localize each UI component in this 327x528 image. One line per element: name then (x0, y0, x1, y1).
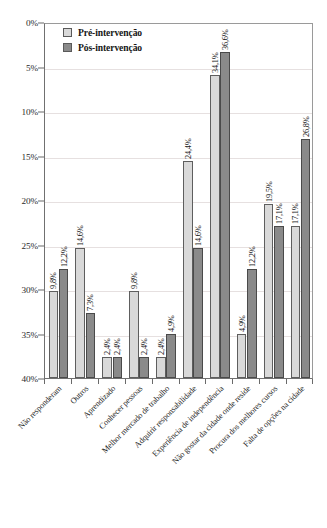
bar-pre: 2,4% (156, 357, 166, 378)
y-axis-tick-label: 0% (26, 18, 38, 28)
bar-pre: 2,4% (102, 357, 112, 378)
bar-pos: 12,2% (59, 269, 69, 378)
legend-label: Pré-intervenção (78, 27, 142, 38)
legend-swatch-pos-icon (63, 43, 72, 52)
bar-value-label: 17,1% (291, 203, 300, 224)
bar-pos: 12,2% (247, 269, 257, 378)
bar-group: 14,6%7,3% (72, 24, 99, 378)
bar-pos: 26,8% (301, 139, 311, 378)
bar-value-label: 34,1% (210, 52, 219, 73)
bar-value-label: 26,8% (301, 117, 310, 138)
legend-label: Pós-intervenção (78, 42, 142, 53)
bar-value-label: 12,2% (247, 247, 256, 268)
bar-value-label: 9,8% (130, 272, 139, 289)
legend-entry-pos: Pós-intervenção (63, 42, 142, 53)
bar-pos: 2,4% (139, 357, 149, 378)
bar-group: 17,1%26,8% (287, 24, 314, 378)
bar-value-label: 2,4% (103, 338, 112, 355)
bar-pos: 36,6% (220, 52, 230, 378)
legend-swatch-pre-icon (63, 28, 72, 37)
bar-value-label: 7,3% (86, 294, 95, 311)
bar-group: 9,8%2,4% (126, 24, 153, 378)
bar-value-label: 14,6% (76, 225, 85, 246)
y-axis-tick-label: 10% (21, 107, 38, 117)
bar-value-label: 12,2% (59, 247, 68, 268)
bar-group: 2,4%4,9% (153, 24, 180, 378)
y-axis-tick-label: 15% (21, 152, 38, 162)
bar-group: 9,8%12,2% (45, 24, 72, 378)
x-axis-category-label: Não responderam (17, 384, 64, 431)
y-axis: 0%5%10%15%20%25%30%35%40% (0, 23, 38, 379)
y-axis-tick-label: 5% (26, 63, 38, 73)
bar-pre: 19,5% (264, 204, 274, 378)
bar-value-label: 4,9% (167, 316, 176, 333)
y-axis-tick-label: 20% (21, 196, 38, 206)
y-axis-tick-label: 25% (21, 241, 38, 251)
bar-value-label: 36,6% (221, 30, 230, 51)
bar-group: 34,1%36,6% (206, 24, 233, 378)
bar-pre: 14,6% (75, 248, 85, 378)
plot-area: 9,8%12,2%14,6%7,3%2,4%2,4%9,8%2,4%2,4%4,… (44, 23, 313, 379)
bar-group: 24,4%14,6% (180, 24, 207, 378)
bar-value-label: 19,5% (264, 182, 273, 203)
bar-pos: 7,3% (86, 313, 96, 378)
bar-group: 19,5%17,1% (260, 24, 287, 378)
bar-group: 2,4%2,4% (99, 24, 126, 378)
chart-legend: Pré-intervençãoPós-intervenção (63, 27, 142, 53)
y-axis-tick-label: 35% (21, 330, 38, 340)
bar-pos: 2,4% (113, 357, 123, 378)
bar-pre: 4,9% (237, 334, 247, 378)
bar-pos: 14,6% (193, 248, 203, 378)
bar-value-label: 2,4% (140, 338, 149, 355)
bar-value-label: 2,4% (157, 338, 166, 355)
bar-value-label: 14,6% (194, 225, 203, 246)
bar-pre: 9,8% (129, 291, 139, 378)
legend-entry-pre: Pré-intervenção (63, 27, 142, 38)
bar-group: 4,9%12,2% (233, 24, 260, 378)
y-axis-tick-label: 30% (21, 285, 38, 295)
bar-value-label: 4,9% (237, 316, 246, 333)
bar-pre: 17,1% (291, 226, 301, 378)
bar-pos: 4,9% (166, 334, 176, 378)
bar-chart: 0%5%10%15%20%25%30%35%40% 9,8%12,2%14,6%… (0, 0, 327, 528)
bar-pos: 17,1% (274, 226, 284, 378)
bar-value-label: 2,4% (113, 338, 122, 355)
bar-value-label: 24,4% (183, 138, 192, 159)
x-axis-category-label: Outros (69, 384, 91, 406)
x-axis-labels: Não responderamOutrosAprendizadoConhecer… (0, 384, 327, 528)
bar-value-label: 9,8% (49, 272, 58, 289)
bar-value-label: 17,1% (274, 203, 283, 224)
bar-pre: 24,4% (183, 161, 193, 378)
bar-pre: 9,8% (49, 291, 59, 378)
bars-layer: 9,8%12,2%14,6%7,3%2,4%2,4%9,8%2,4%2,4%4,… (45, 24, 312, 378)
y-axis-tick-label: 40% (21, 374, 38, 384)
bar-pre: 34,1% (210, 75, 220, 378)
